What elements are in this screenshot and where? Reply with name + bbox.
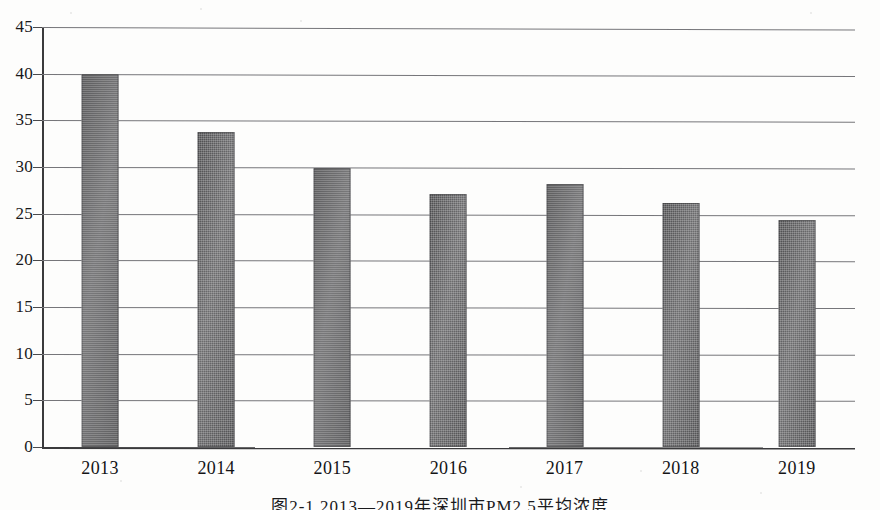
bar-series xyxy=(42,27,855,447)
y-tick-mark-15 xyxy=(33,307,42,308)
scan-speckle xyxy=(760,492,762,494)
y-tick-label-15: 15 xyxy=(3,297,33,317)
x-tick-label-2016: 2016 xyxy=(389,458,509,479)
bar-2013[interactable] xyxy=(82,74,119,447)
bar-2018[interactable] xyxy=(662,203,699,447)
y-tick-mark-0 xyxy=(33,447,42,448)
scan-speckle xyxy=(810,12,812,14)
scan-speckle xyxy=(640,470,642,472)
y-tick-label-35: 35 xyxy=(3,110,33,130)
y-tick-mark-20 xyxy=(33,260,42,261)
y-tick-label-10: 10 xyxy=(3,344,33,364)
y-tick-mark-10 xyxy=(33,354,42,355)
scan-speckle xyxy=(520,486,522,488)
y-tick-label-30: 30 xyxy=(3,157,33,177)
y-tick-mark-40 xyxy=(33,74,42,75)
y-tick-label-25: 25 xyxy=(3,204,33,224)
bar-slot xyxy=(274,27,390,447)
y-tick-label-5: 5 xyxy=(3,390,33,410)
scan-speckle xyxy=(300,20,302,22)
y-axis-labels: 45 40 35 30 25 20 15 10 5 0 xyxy=(0,27,33,447)
bar-chart-figure: 45 40 35 30 25 20 15 10 5 0 xyxy=(0,0,880,510)
x-tick-label-2019: 2019 xyxy=(737,458,857,479)
scan-speckle xyxy=(200,8,202,10)
bar-2014[interactable] xyxy=(198,132,235,447)
figure-caption: 图2-1 2013—2019年深圳市PM2.5平均浓度 xyxy=(0,492,880,510)
bar-slot xyxy=(739,27,855,447)
y-tick-label-0: 0 xyxy=(3,437,33,457)
y-tick-mark-30 xyxy=(33,167,42,168)
y-tick-label-20: 20 xyxy=(3,250,33,270)
x-tick-label-2013: 2013 xyxy=(40,458,160,479)
bar-slot xyxy=(158,27,274,447)
bar-2019[interactable] xyxy=(778,220,815,447)
x-tick-label-2018: 2018 xyxy=(621,458,741,479)
scan-speckle xyxy=(120,480,122,482)
y-tick-mark-45 xyxy=(33,27,42,28)
bar-2017[interactable] xyxy=(546,184,583,447)
x-tick-label-2015: 2015 xyxy=(272,458,392,479)
scan-speckle xyxy=(70,12,72,14)
bar-slot xyxy=(623,27,739,447)
y-tick-mark-25 xyxy=(33,214,42,215)
bar-slot xyxy=(507,27,623,447)
bar-slot xyxy=(42,27,158,447)
x-tick-label-2014: 2014 xyxy=(156,458,276,479)
bar-2016[interactable] xyxy=(430,194,467,447)
y-tick-label-40: 40 xyxy=(3,64,33,84)
bar-slot xyxy=(390,27,506,447)
bar-2015[interactable] xyxy=(314,168,351,447)
y-tick-mark-5 xyxy=(33,400,42,401)
y-tick-label-45: 45 xyxy=(3,17,33,37)
x-axis-line xyxy=(42,447,855,450)
x-tick-label-2017: 2017 xyxy=(505,458,625,479)
y-tick-mark-35 xyxy=(33,120,42,121)
